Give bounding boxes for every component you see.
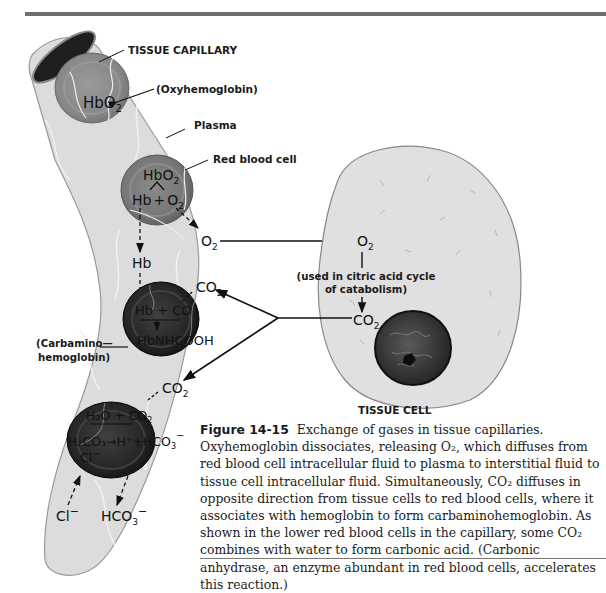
hco3-outside-label: HCO3−: [101, 505, 147, 527]
co2-upper-label: CO2: [196, 279, 223, 298]
rbc-leader: [185, 160, 208, 170]
carbamino-label-1: (Carbamino—: [36, 338, 113, 349]
carbonic-acid-equation: H₂CO₃→H⁺+HCO3−: [68, 430, 184, 451]
o2-plasma-label: O2: [201, 233, 218, 252]
citric-acid-label-2: of catabolism): [325, 284, 407, 295]
caption-text: Exchange of gases in tissue capillaries.…: [200, 422, 599, 592]
bottom-rule: [200, 558, 606, 559]
nucleus: [375, 311, 451, 385]
co2-arrow-upper: [216, 290, 278, 318]
hb-label: Hb: [132, 255, 152, 271]
tissue-capillary-label: TISSUE CAPILLARY: [128, 44, 238, 56]
plasma-label: Plasma: [194, 119, 237, 131]
figure-number: Figure 14-15: [200, 422, 289, 437]
tissue-cell-label: TISSUE CELL: [358, 404, 432, 416]
hb-plus-co2-label: Hb + CO: [135, 303, 192, 318]
carbamino-label-2: hemoglobin): [38, 352, 110, 363]
figure-caption: Figure 14-15Exchange of gases in tissue …: [200, 421, 604, 593]
citric-acid-label-1: (used in citric acid cycle: [297, 271, 436, 282]
red-blood-cell-label: Red blood cell: [213, 153, 297, 165]
oxyhemoglobin-label: (Oxyhemoglobin): [156, 83, 258, 95]
plasma-leader: [166, 129, 185, 138]
hbnhcooh-label: HbNHCOOH: [137, 333, 214, 348]
h2o-plus-co2-label: H₂O + CO2: [86, 408, 152, 425]
